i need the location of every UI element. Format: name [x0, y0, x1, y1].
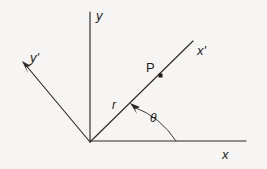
- theta-label: θ: [150, 111, 157, 125]
- point-p-marker: [159, 74, 163, 78]
- point-p-label: P: [146, 60, 155, 75]
- x-prime-axis-label: x': [196, 43, 207, 58]
- x-prime-axis-line: [90, 41, 193, 142]
- y-prime-axis-label: y': [29, 50, 40, 65]
- x-axis-label: x: [221, 147, 229, 162]
- radius-label: r: [112, 98, 117, 112]
- figure-canvas: y x x' y' P r θ: [0, 0, 267, 169]
- y-prime-axis-line: [24, 63, 90, 142]
- y-axis-label: y: [95, 8, 104, 23]
- coordinate-diagram: y x x' y' P r θ: [0, 0, 267, 169]
